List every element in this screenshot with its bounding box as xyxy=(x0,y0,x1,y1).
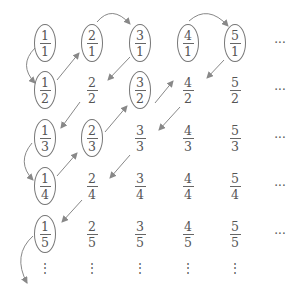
fraction-1-4: 14 xyxy=(34,167,56,205)
numerator: 5 xyxy=(231,220,239,233)
numerator: 1 xyxy=(41,76,49,89)
denominator: 1 xyxy=(184,45,192,58)
numerator: 2 xyxy=(88,76,96,89)
numerator: 1 xyxy=(41,124,49,137)
row-ellipsis: ··· xyxy=(274,36,285,50)
fraction-3-4: 34 xyxy=(127,166,153,206)
fraction-2-2: 22 xyxy=(79,70,105,110)
fraction-1-1: 11 xyxy=(34,24,56,62)
fraction-2-3: 23 xyxy=(81,119,103,157)
arrow-icon xyxy=(57,153,77,176)
denominator: 4 xyxy=(184,188,192,201)
arrow-icon xyxy=(61,102,80,128)
numerator: 2 xyxy=(88,172,96,185)
denominator: 3 xyxy=(231,140,239,153)
fraction-2-4: 24 xyxy=(79,166,105,206)
fraction-1-5: 15 xyxy=(34,215,56,253)
numerator: 3 xyxy=(136,172,144,185)
arrow-icon xyxy=(105,106,127,132)
denominator: 4 xyxy=(136,188,144,201)
arrow-icon xyxy=(108,57,130,80)
numerator: 4 xyxy=(184,76,192,89)
fraction-3-5: 35 xyxy=(127,214,153,254)
fraction-3-1: 31 xyxy=(129,24,151,62)
numerator: 3 xyxy=(136,220,144,233)
denominator: 5 xyxy=(231,236,239,249)
fraction-4-3: 43 xyxy=(175,118,201,158)
denominator: 3 xyxy=(41,140,49,153)
denominator: 1 xyxy=(136,45,144,58)
fraction-3-2: 32 xyxy=(129,71,151,109)
denominator: 1 xyxy=(41,45,49,58)
numerator: 5 xyxy=(231,29,239,42)
row-ellipsis: ··· xyxy=(274,83,285,97)
numerator: 3 xyxy=(136,29,144,42)
numerator: 4 xyxy=(184,172,192,185)
numerator: 4 xyxy=(184,124,192,137)
arrow-icon xyxy=(57,53,79,80)
column-ellipsis: ⋮ xyxy=(229,261,241,275)
column-ellipsis: ⋮ xyxy=(134,261,146,275)
denominator: 5 xyxy=(184,236,192,249)
fraction-5-2: 52 xyxy=(222,70,248,110)
fraction-5-4: 54 xyxy=(222,166,248,206)
rational-enumeration-diagram: 1121314151122232425213233343531424344454… xyxy=(0,0,300,298)
numerator: 2 xyxy=(88,124,96,137)
numerator: 1 xyxy=(41,220,49,233)
fraction-4-5: 45 xyxy=(175,214,201,254)
fraction-1-3: 13 xyxy=(34,119,56,157)
denominator: 3 xyxy=(136,140,144,153)
numerator: 5 xyxy=(231,172,239,185)
numerator: 4 xyxy=(184,29,192,42)
denominator: 5 xyxy=(136,236,144,249)
arrow-icon xyxy=(24,143,33,180)
column-ellipsis: ⋮ xyxy=(182,261,194,275)
fraction-4-2: 42 xyxy=(175,70,201,110)
denominator: 2 xyxy=(41,92,49,105)
row-ellipsis: ··· xyxy=(274,131,285,145)
denominator: 4 xyxy=(231,188,239,201)
denominator: 3 xyxy=(88,140,96,153)
arrow-icon xyxy=(189,14,228,26)
row-ellipsis: ··· xyxy=(274,179,285,193)
arrow-icon xyxy=(97,13,130,24)
numerator: 2 xyxy=(88,29,96,42)
denominator: 4 xyxy=(41,188,49,201)
denominator: 2 xyxy=(88,92,96,105)
fraction-3-3: 33 xyxy=(127,118,153,158)
denominator: 5 xyxy=(41,236,49,249)
column-ellipsis: ⋮ xyxy=(86,261,98,275)
fraction-2-5: 25 xyxy=(79,214,105,254)
fraction-5-3: 53 xyxy=(222,118,248,158)
denominator: 2 xyxy=(184,92,192,105)
denominator: 5 xyxy=(88,236,96,249)
denominator: 3 xyxy=(184,140,192,153)
numerator: 3 xyxy=(136,124,144,137)
arrow-icon xyxy=(21,236,33,283)
fraction-5-1: 51 xyxy=(224,24,246,62)
fraction-4-1: 41 xyxy=(177,24,199,62)
denominator: 1 xyxy=(231,45,239,58)
numerator: 2 xyxy=(88,220,96,233)
fraction-2-1: 21 xyxy=(81,24,103,62)
numerator: 5 xyxy=(231,124,239,137)
column-ellipsis: ⋮ xyxy=(39,261,51,275)
numerator: 1 xyxy=(41,172,49,185)
fraction-1-2: 12 xyxy=(34,71,56,109)
denominator: 2 xyxy=(231,92,239,105)
denominator: 4 xyxy=(88,188,96,201)
denominator: 2 xyxy=(136,92,144,105)
denominator: 1 xyxy=(88,45,96,58)
row-ellipsis: ··· xyxy=(274,227,285,241)
numerator: 3 xyxy=(136,76,144,89)
fraction-4-4: 44 xyxy=(175,166,201,206)
arrow-icon xyxy=(27,48,36,83)
arrow-icon xyxy=(155,81,173,103)
numerator: 4 xyxy=(184,220,192,233)
numerator: 5 xyxy=(231,76,239,89)
fraction-5-5: 55 xyxy=(222,214,248,254)
numerator: 1 xyxy=(41,29,49,42)
